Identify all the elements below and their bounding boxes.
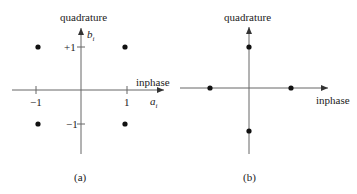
tick-label-y-neg: −1 (66, 119, 78, 130)
point-b-1 (246, 44, 251, 49)
quadrature-label-b: quadrature (224, 12, 271, 23)
point-a-1 (35, 44, 40, 49)
tick-label-y-pos: +1 (64, 42, 76, 53)
point-b-3 (288, 85, 293, 90)
quadrature-label-a: quadrature (60, 12, 107, 23)
x-var-sub: i (156, 102, 158, 110)
inphase-label-b: inphase (316, 95, 350, 106)
inphase-label-a: inphase (136, 77, 170, 88)
point-a-3 (35, 121, 40, 126)
y-var-sub: i (93, 35, 95, 43)
tick-label-x-pos: 1 (124, 97, 130, 108)
x-var-label-a: ai (150, 96, 157, 110)
constellation-diagrams (0, 0, 357, 194)
y-var-label-a: bi (87, 29, 94, 43)
panel-a-axes (12, 28, 164, 154)
panel-b-points (207, 44, 293, 133)
caption-a: (a) (74, 172, 86, 183)
panel-b-axes (180, 27, 328, 154)
point-b-2 (207, 85, 212, 90)
point-a-4 (122, 121, 127, 126)
caption-b: (b) (243, 172, 256, 183)
point-a-2 (122, 44, 127, 49)
point-b-4 (246, 128, 251, 133)
tick-label-x-neg: −1 (30, 97, 42, 108)
